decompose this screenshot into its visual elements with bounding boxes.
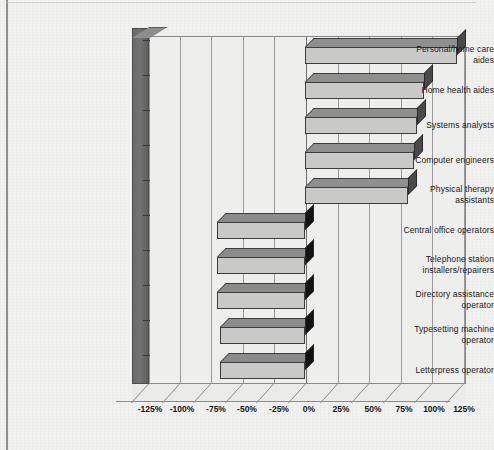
y-tick-5	[143, 215, 150, 216]
y-tick-7	[143, 285, 150, 286]
category-axis-wall	[132, 28, 149, 384]
bar-top-face	[220, 318, 314, 327]
category-label-personal-home-care-aides: Personal/home care aides	[366, 44, 494, 66]
category-label-line: Physical therapy	[366, 184, 494, 195]
x-tick-label-100: 100%	[417, 404, 451, 414]
category-label-line: operator	[366, 300, 494, 311]
x-tick-label--50: -50%	[230, 404, 264, 414]
y-tick-8	[143, 320, 150, 321]
x-tick-label-0: 0%	[292, 404, 326, 414]
category-label-line: Computer engineers	[366, 155, 494, 166]
bar-front-face	[217, 292, 305, 309]
bar-chart: Personal/home care aides Home health aid…	[0, 0, 494, 450]
bar-top-face	[220, 353, 314, 362]
x-tick-label--25: -25%	[262, 404, 296, 414]
category-label-line: Central office operators	[366, 225, 494, 236]
category-label-line: Home health aides	[366, 85, 494, 96]
bar-top-face	[305, 143, 423, 152]
gridline--125	[149, 37, 150, 383]
category-label-systems-analysts: Systems analysts	[366, 120, 494, 131]
gridline--100	[180, 37, 181, 383]
y-tick-3	[143, 145, 150, 146]
category-label-line: aides	[366, 55, 494, 66]
x-tick-label--75: -75%	[199, 404, 233, 414]
y-tick-6	[143, 250, 150, 251]
bar-typesetting-machine-operator	[220, 327, 305, 344]
category-label-computer-engineers: Computer engineers	[366, 155, 494, 166]
category-label-central-office-operators: Central office operators	[366, 225, 494, 236]
category-label-line: assistants	[366, 195, 494, 206]
x-tick-label-25: 25%	[324, 404, 358, 414]
x-tick-label--100: -100%	[165, 404, 199, 414]
bar-front-face	[220, 362, 305, 379]
category-label-directory-assistance-operator: Directory assistance operator	[366, 289, 494, 311]
category-label-line: Personal/home care	[366, 44, 494, 55]
category-label-physical-therapy-assistants: Physical therapy assistants	[366, 184, 494, 206]
y-tick-4	[143, 180, 150, 181]
bar-front-face	[220, 327, 305, 344]
x-tick-label--125: -125%	[133, 404, 167, 414]
bar-directory-assistance-operator	[217, 292, 305, 309]
bar-top-face	[217, 283, 314, 292]
x-tick-label-125: 125%	[447, 404, 481, 414]
y-tick-0	[143, 40, 150, 41]
category-label-typesetting-machine-operator: Typesetting machine operator	[366, 324, 494, 346]
x-tick-label-50: 50%	[356, 404, 390, 414]
category-label-line: Directory assistance	[366, 289, 494, 300]
bar-top-face	[217, 213, 314, 222]
category-label-line: Typesetting machine	[366, 324, 494, 335]
bar-top-face	[217, 248, 314, 257]
category-label-letterpress-operator: Letterpress operator	[366, 365, 494, 376]
x-tick-label-75: 75%	[387, 404, 421, 414]
bar-top-face	[305, 108, 426, 117]
category-label-line: Letterpress operator	[366, 365, 494, 376]
bar-telephone-station-installers-repairers	[217, 257, 305, 274]
category-label-home-health-aides: Home health aides	[366, 85, 494, 96]
chart-floor-front-edge	[116, 401, 450, 402]
bar-front-face	[217, 222, 305, 239]
bar-front-face	[217, 257, 305, 274]
category-label-telephone-station-installers-repairers: Telephone station installers/repairers	[366, 254, 494, 276]
category-label-line: operator	[366, 335, 494, 346]
y-tick-1	[143, 75, 150, 76]
bar-central-office-operators	[217, 222, 305, 239]
category-label-line: Systems analysts	[366, 120, 494, 131]
bar-top-face	[305, 73, 433, 82]
gridline--75	[211, 37, 212, 383]
y-tick-9	[143, 355, 150, 356]
category-label-line: Telephone station	[366, 254, 494, 265]
y-tick-2	[143, 110, 150, 111]
category-label-line: installers/repairers	[366, 265, 494, 276]
bar-letterpress-operator	[220, 362, 305, 379]
